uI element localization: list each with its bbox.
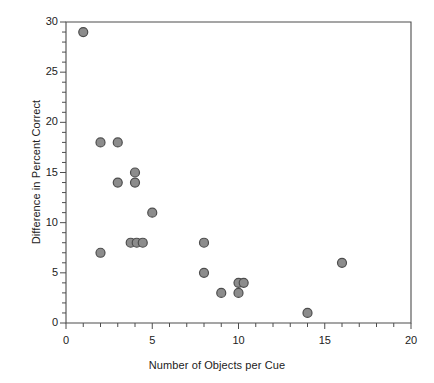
- data-point: [303, 308, 312, 317]
- y-axis-title-wrapper: Difference in Percent Correct: [26, 22, 44, 322]
- data-point: [113, 178, 122, 187]
- x-tick-label: 5: [139, 334, 165, 346]
- data-point: [113, 138, 122, 147]
- x-tick-label: 10: [226, 334, 252, 346]
- y-axis-title: Difference in Percent Correct: [30, 100, 42, 245]
- x-axis-title: Number of Objects per Cue: [149, 359, 285, 371]
- scatter-plot-figure: 051015202530 05101520 Difference in Perc…: [0, 0, 434, 383]
- data-points-group: [79, 28, 347, 318]
- x-axis-title-wrapper: Number of Objects per Cue: [0, 355, 434, 373]
- data-point: [217, 288, 226, 297]
- data-point: [138, 238, 147, 247]
- x-axis-ticks: [66, 323, 411, 329]
- data-point: [239, 278, 248, 287]
- y-axis-ticks: [60, 22, 66, 323]
- data-point: [131, 178, 140, 187]
- data-point: [131, 168, 140, 177]
- data-point: [200, 268, 209, 277]
- data-point: [234, 288, 243, 297]
- data-point: [79, 28, 88, 37]
- plot-canvas: [0, 0, 434, 383]
- data-point: [200, 238, 209, 247]
- data-point: [96, 138, 105, 147]
- data-point: [96, 248, 105, 257]
- data-point: [338, 258, 347, 267]
- x-tick-label: 0: [53, 334, 79, 346]
- data-point: [148, 208, 157, 217]
- x-tick-label: 15: [312, 334, 338, 346]
- x-tick-label: 20: [398, 334, 424, 346]
